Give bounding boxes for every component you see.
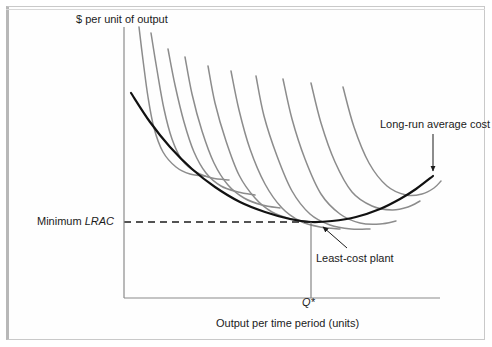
lrac-curve: [131, 93, 433, 222]
srac-curve: [151, 33, 229, 180]
least-cost-plant-arrow: [323, 227, 347, 248]
minimum-lrac-label: Minimum LRAC: [37, 215, 114, 228]
minimum-lrac-label-italic: LRAC: [85, 215, 114, 227]
long-run-average-cost-label: Long-run average cost: [380, 118, 490, 131]
srac-curve: [256, 76, 370, 229]
x-axis-title: Output per time period (units): [216, 317, 359, 330]
cost-curve-plot: [0, 0, 492, 347]
long-run-average-cost-curve: [131, 93, 433, 222]
y-axis-title: $ per unit of output: [76, 13, 168, 26]
minimum-lrac-label-plain: Minimum: [37, 215, 85, 227]
srac-curve: [343, 87, 441, 196]
figure-container: $ per unit of output Output per time per…: [0, 0, 492, 347]
least-cost-plant-label: Least-cost plant: [316, 252, 394, 265]
srac-curve: [311, 83, 420, 210]
q-star-label: Q*: [302, 296, 315, 309]
